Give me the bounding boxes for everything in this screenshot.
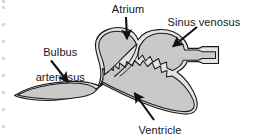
edge-mark bbox=[2, 23, 5, 26]
edge-mark bbox=[2, 40, 5, 43]
label-atrium: Atrium bbox=[104, 3, 152, 16]
edge-mark bbox=[2, 57, 5, 60]
label-bulbus-arteriosus: Bulbus arteriosus bbox=[17, 33, 91, 96]
atrium-arrow bbox=[126, 17, 127, 39]
label-bulbus-arteriosus-line2: arteriosus bbox=[36, 71, 85, 83]
edge-mark bbox=[2, 74, 5, 77]
edge-mark bbox=[2, 125, 5, 128]
edge-mark bbox=[2, 0, 5, 3]
fish-heart-diagram: Atrium Sinus venosus Bulbus arteriosus V… bbox=[0, 0, 255, 140]
edge-mark bbox=[2, 91, 5, 94]
label-ventricle: Ventricle bbox=[128, 124, 192, 137]
edge-mark bbox=[2, 6, 5, 9]
edge-mark bbox=[2, 108, 5, 111]
label-sinus-venosus: Sinus venosus bbox=[158, 16, 250, 29]
label-bulbus-arteriosus-line1: Bulbus bbox=[43, 46, 77, 58]
